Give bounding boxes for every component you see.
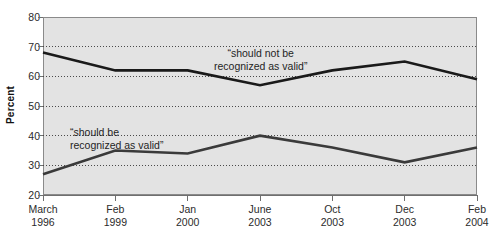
x-tick-month: Jan <box>153 203 223 216</box>
y-tick-label: 30 <box>18 160 40 170</box>
x-tick-year: 2003 <box>297 216 367 229</box>
y-tick-label: 80 <box>18 12 40 22</box>
x-tick-label: June2003 <box>225 203 295 228</box>
y-tick-label: 70 <box>18 42 40 52</box>
plot-series-layer <box>43 17 477 195</box>
x-tick-year: 2004 <box>442 216 497 229</box>
y-tick-label: 60 <box>18 71 40 81</box>
annotation-should-not-be-recognized: “should not be recognized as valid” <box>214 47 307 72</box>
x-tick-label: Oct2003 <box>297 203 367 228</box>
x-tick-month: Dec <box>370 203 440 216</box>
y-axis-title: Percent <box>2 70 18 140</box>
annotation-upper-line1: “should not be <box>214 47 307 60</box>
annotation-lower-line2: recognized as valid” <box>70 139 163 152</box>
x-tick-year: 1996 <box>8 216 78 229</box>
x-tick-label: Jan2000 <box>153 203 223 228</box>
x-tick-year: 2003 <box>225 216 295 229</box>
y-tick-label: 50 <box>18 101 40 111</box>
x-axis-tick-labels: March1996Feb1999Jan2000June2003Oct2003De… <box>0 203 497 243</box>
x-tick-month: March <box>8 203 78 216</box>
line-chart: Percent 20304050607080 “should not be re… <box>0 0 497 245</box>
y-tick-label: 40 <box>18 131 40 141</box>
x-tick-month: Oct <box>297 203 367 216</box>
x-tick-month: June <box>225 203 295 216</box>
annotation-lower-line1: “should be <box>70 126 163 139</box>
x-tick-label: Feb2004 <box>442 203 497 228</box>
annotation-upper-line2: recognized as valid” <box>214 60 307 73</box>
x-tick-label: March1996 <box>8 203 78 228</box>
x-tick-year: 2000 <box>153 216 223 229</box>
x-tick-label: Feb1999 <box>80 203 150 228</box>
x-tick-year: 1999 <box>80 216 150 229</box>
annotation-should-be-recognized: “should be recognized as valid” <box>70 126 163 151</box>
y-tick-label: 20 <box>18 190 40 200</box>
x-tick-month: Feb <box>442 203 497 216</box>
x-tick-month: Feb <box>80 203 150 216</box>
x-tick-label: Dec2003 <box>370 203 440 228</box>
x-tick-year: 2003 <box>370 216 440 229</box>
